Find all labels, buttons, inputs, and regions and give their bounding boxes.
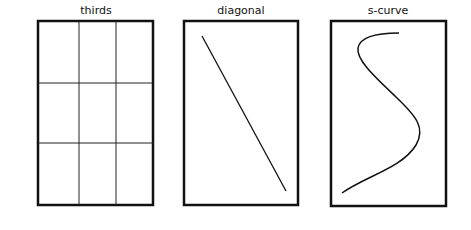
thirds-frame [38, 21, 153, 205]
thirds-grid-lines [38, 21, 153, 205]
diagonal-frame [184, 21, 298, 205]
diagonal-line [202, 36, 286, 191]
thirds-panel [38, 21, 153, 205]
s-curve-panel [331, 21, 446, 206]
diagonal-panel [184, 21, 298, 205]
s-curve-path [342, 33, 420, 193]
s-curve-frame [331, 21, 446, 206]
composition-diagrams [0, 0, 471, 230]
